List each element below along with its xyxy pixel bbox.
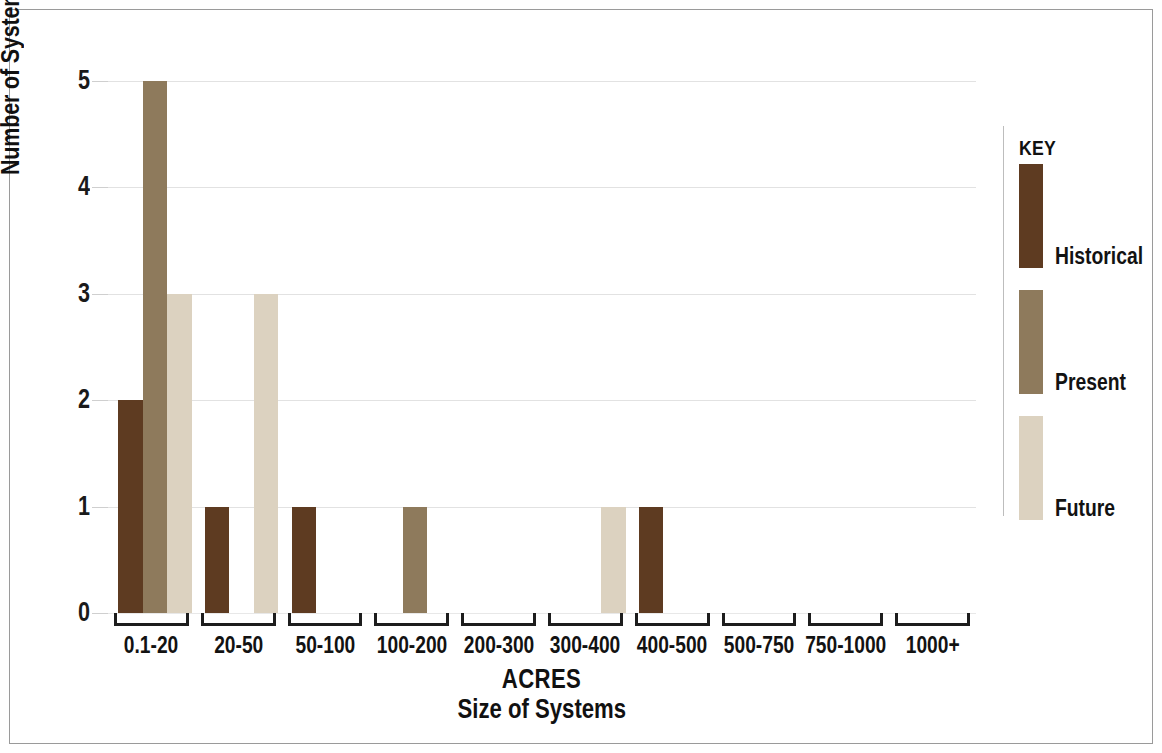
bar-present-100-200 [403, 507, 428, 613]
gridline-2 [108, 400, 976, 401]
legend-entry-present: Present [1019, 290, 1154, 394]
legend-swatch-historical [1019, 164, 1043, 268]
x-tick-bracket-500-750 [722, 613, 797, 626]
x-tick-label-1000+: 1000+ [881, 633, 984, 657]
y-tick-label-5: 5 [58, 67, 90, 94]
legend-title: KEY [1019, 136, 1063, 160]
y-tick-label-0: 0 [58, 599, 90, 626]
legend-label-present: Present [1055, 371, 1139, 394]
y-tick-mark-5 [92, 81, 108, 82]
y-axis-title: Number of Systems in Subregion [0, 0, 25, 175]
y-tick-mark-0 [92, 613, 108, 614]
x-tick-bracket-200-300 [461, 613, 536, 626]
x-tick-bracket-400-500 [635, 613, 710, 626]
x-axis-title-line2: Size of Systems [108, 694, 976, 724]
legend-label-text: Future [1055, 497, 1115, 520]
x-axis-title-line1: ACRES [108, 664, 976, 694]
legend-swatch-future [1019, 416, 1043, 520]
bar-future-0.1-20 [167, 294, 192, 613]
y-tick-mark-2 [92, 400, 108, 401]
legend-entry-future: Future [1019, 416, 1154, 520]
chart-page: Number of Systems in Subregion 012345 0.… [0, 0, 1162, 753]
legend-label-text: Present [1055, 371, 1126, 394]
y-tick-label-2: 2 [58, 386, 90, 413]
bar-future-20-50 [254, 294, 279, 613]
gridline-4 [108, 187, 976, 188]
y-tick-mark-1 [92, 507, 108, 508]
plot-area [108, 60, 976, 613]
gridline-5 [108, 81, 976, 82]
legend-label-text: Historical [1055, 245, 1143, 268]
bar-historical-400-500 [639, 507, 664, 613]
bar-future-300-400 [601, 507, 626, 613]
bar-historical-20-50 [205, 507, 230, 613]
x-tick-bracket-0.1-20 [114, 613, 189, 626]
legend-label-future: Future [1055, 497, 1127, 520]
legend-divider [1003, 126, 1004, 516]
x-tick-bracket-50-100 [288, 613, 363, 626]
gridline-3 [108, 294, 976, 295]
bar-historical-50-100 [292, 507, 317, 613]
y-tick-label-4: 4 [58, 173, 90, 200]
x-tick-bracket-750-1000 [808, 613, 883, 626]
legend-label-historical: Historical [1055, 245, 1160, 268]
x-axis-title: ACRES Size of Systems [108, 664, 976, 724]
y-tick-label-1: 1 [58, 493, 90, 520]
bar-historical-0.1-20 [118, 400, 143, 613]
y-tick-label-3: 3 [58, 280, 90, 307]
legend-entry-historical: Historical [1019, 164, 1154, 268]
y-tick-mark-4 [92, 187, 108, 188]
y-tick-mark-3 [92, 294, 108, 295]
x-tick-bracket-100-200 [374, 613, 449, 626]
x-tick-bracket-300-400 [548, 613, 623, 626]
gridline-1 [108, 507, 976, 508]
bar-chart-figure: Number of Systems in Subregion 012345 0.… [0, 0, 1162, 753]
legend-swatch-present [1019, 290, 1043, 394]
y-axis-title-text: Number of Systems in Subregion [0, 0, 25, 175]
legend: KEY HistoricalPresentFuture [1003, 126, 1153, 516]
x-tick-bracket-20-50 [201, 613, 276, 626]
bar-present-0.1-20 [143, 81, 168, 613]
x-tick-bracket-1000+ [895, 613, 970, 626]
